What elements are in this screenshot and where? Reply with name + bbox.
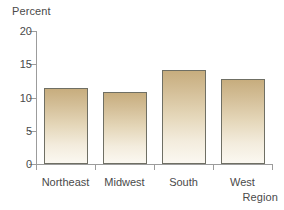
bar (44, 88, 88, 164)
x-axis-tick-mark (213, 164, 214, 170)
bar (103, 92, 147, 164)
x-axis-category-label: South (169, 176, 198, 188)
y-axis-tick-label: 10 (20, 92, 32, 103)
x-axis-category-label: Midwest (104, 176, 144, 188)
y-axis-tick-label: 20 (20, 26, 32, 37)
x-axis-tick-mark (272, 164, 273, 170)
x-axis-tick-mark (36, 164, 37, 170)
bar-chart: Percent 05101520 NortheastMidwestSouthWe… (0, 0, 284, 210)
bar (162, 70, 206, 164)
y-axis-tick-label: 5 (26, 125, 32, 136)
plot-area: 05101520 (36, 31, 272, 164)
y-axis-title: Percent (12, 5, 51, 17)
y-axis-tick-label: 15 (20, 59, 32, 70)
x-axis-title: Region (243, 191, 278, 203)
x-axis-tick-mark (154, 164, 155, 170)
x-axis-category-label: West (230, 176, 255, 188)
bar (221, 79, 265, 164)
x-axis-category-label: Northeast (42, 176, 90, 188)
x-axis-tick-mark (95, 164, 96, 170)
y-axis-tick-label: 0 (26, 159, 32, 170)
